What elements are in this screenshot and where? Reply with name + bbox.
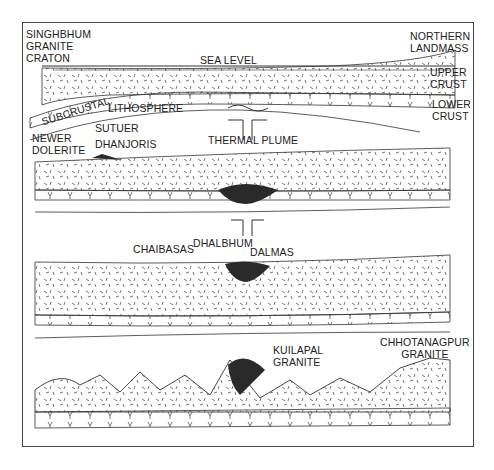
label-line: LANDMASS (410, 42, 470, 54)
label-thermal-plume: THERMAL PLUME (208, 134, 298, 146)
label-line: LOWER (432, 98, 471, 110)
label-newer-dolerite: NEWER DOLERITE (32, 132, 85, 156)
label-kuilapal-granite: KUILAPAL GRANITE (273, 344, 323, 368)
label-chaibasas: CHAIBASAS (133, 243, 194, 255)
label-northern-landmass: NORTHERN LANDMASS (410, 30, 470, 54)
label-singhbhum-granite-craton: SINGHBHUM GRANITE CRATON (26, 28, 91, 64)
cross-section-drawing (0, 0, 494, 470)
label-line: SINGHBHUM (26, 28, 91, 40)
label-line: GRANITE (273, 356, 323, 368)
label-line: NORTHERN (410, 30, 470, 42)
label-lithosphere: LITHOSPHERE (108, 102, 183, 114)
label-line: GRANITE (380, 348, 470, 360)
label-line: NEWER (32, 132, 85, 144)
label-chhotanagpur-granite: CHHOTANAGPUR GRANITE (380, 336, 470, 360)
label-upper-crust: UPPER CRUST (430, 66, 467, 90)
panel-3 (35, 255, 450, 338)
label-dalmas: DALMAS (250, 246, 294, 258)
label-line: CRUST (432, 110, 471, 122)
label-dhalbhum: DHALBHUM (193, 237, 253, 249)
label-line: KUILAPAL (273, 344, 323, 356)
panel-2 (35, 148, 450, 236)
label-sutuer: SUTUER (95, 122, 139, 134)
label-line: UPPER (430, 66, 467, 78)
label-line: CRUST (430, 78, 467, 90)
label-line: DOLERITE (32, 144, 85, 156)
label-line: CRATON (26, 52, 91, 64)
label-lower-crust: LOWER CRUST (432, 98, 471, 122)
label-sea-level: SEA LEVEL (200, 54, 257, 66)
label-dhanjoris: DHANJORIS (95, 138, 157, 150)
panel-4 (35, 358, 450, 428)
label-line: GRANITE (26, 40, 91, 52)
label-line: CHHOTANAGPUR (380, 336, 470, 348)
